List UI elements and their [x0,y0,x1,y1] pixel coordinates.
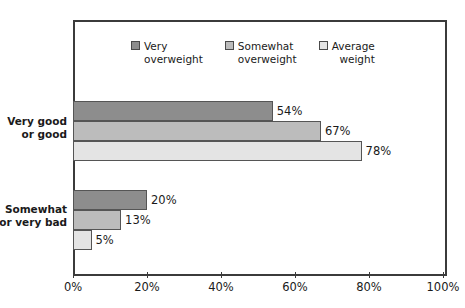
bar-row: 13% [73,210,443,230]
category-label-somewhat-or-very-bad: Somewhat or very bad [0,203,67,229]
x-axis-tick [221,272,222,278]
category-label-very-good-or-good: Very good or good [0,115,67,141]
x-axis-ticks [73,272,443,278]
x-axis-tick-label: 0% [64,280,82,294]
bar-row: 67% [73,121,443,141]
x-axis-tick [369,272,370,278]
bar-value-label: 67% [321,121,351,141]
bar-somewhat-overweight-very-bad[interactable] [73,210,121,230]
x-axis-tick [73,272,74,278]
x-axis-tick-label: 80% [356,280,382,294]
bar-value-label: 20% [147,190,177,210]
x-axis-tick-label: 40% [208,280,234,294]
bar-very-overweight-very-bad[interactable] [73,190,147,210]
x-axis-tick-label: 100% [427,280,460,294]
x-axis-tick-labels: 0%20%40%60%80%100% [73,280,443,296]
bar-group-somewhat-or-very-bad: 20% 13% 5% [73,190,443,250]
bar-row: 54% [73,101,443,121]
x-axis-tick [295,272,296,278]
bar-average-weight-very-bad[interactable] [73,230,92,250]
bar-row: 20% [73,190,443,210]
bar-value-label: 54% [273,101,303,121]
bar-chart: Very overweight Somewhat overweight Aver… [0,0,465,308]
bar-value-label: 78% [362,141,392,161]
bar-average-weight-very-good[interactable] [73,141,362,161]
bar-value-label: 5% [92,230,114,250]
bar-row: 5% [73,230,443,250]
bar-very-overweight-very-good[interactable] [73,101,273,121]
x-axis-tick [443,272,444,278]
bar-value-label: 13% [121,210,151,230]
bars-layer: 54% 67% 78% 20% 13% 5% [73,20,443,272]
bar-row: 78% [73,141,443,161]
bar-somewhat-overweight-very-good[interactable] [73,121,321,141]
x-axis-tick-label: 20% [134,280,160,294]
x-axis-tick-label: 60% [282,280,308,294]
x-axis-tick [147,272,148,278]
bar-group-very-good-or-good: 54% 67% 78% [73,101,443,161]
